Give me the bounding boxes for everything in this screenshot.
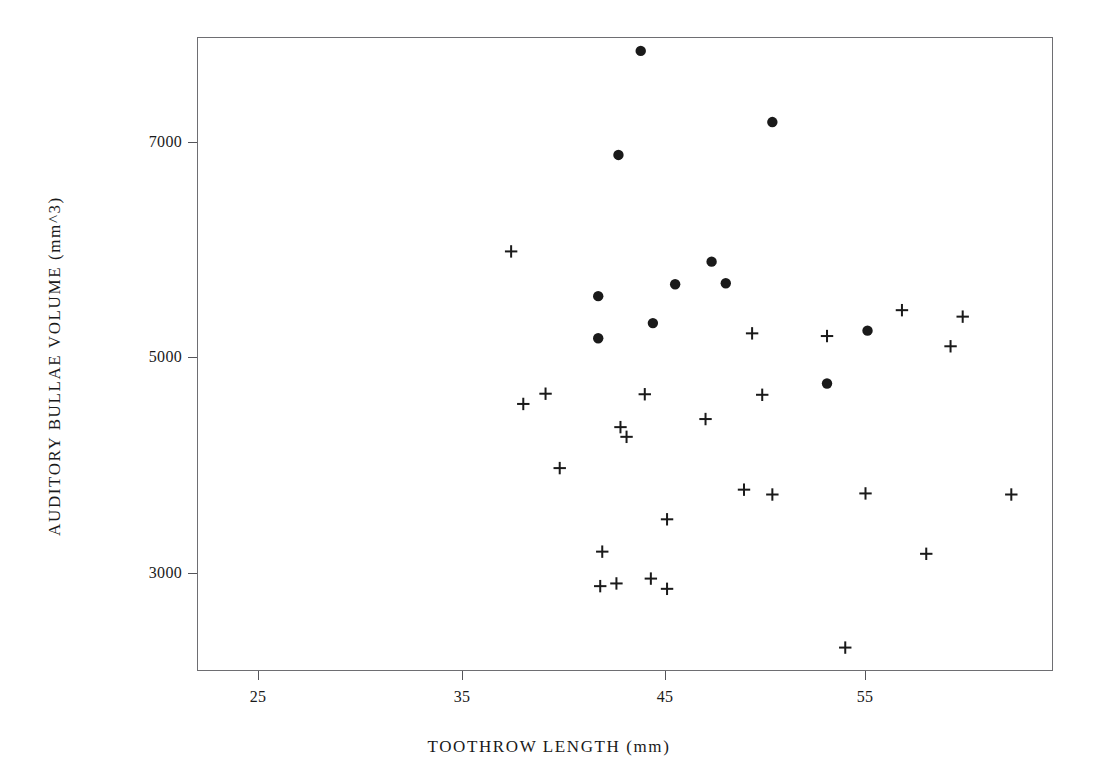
xtick-label-35: 35 <box>454 688 471 706</box>
scatter-plot-figure: 7000 5000 3000 25 35 45 55 TOOTHROW LENG… <box>0 0 1098 778</box>
ytick-label-3000: 3000 <box>98 564 182 582</box>
plot-area-frame <box>197 37 1053 671</box>
ytick-mark-5000 <box>188 357 197 358</box>
xtick-label-55: 55 <box>857 688 874 706</box>
ytick-label-7000: 7000 <box>98 133 182 151</box>
xtick-mark-25 <box>258 671 259 680</box>
xtick-mark-45 <box>665 671 666 680</box>
xtick-label-45: 45 <box>657 688 674 706</box>
y-axis-title: AUDITORY BULLAE VOLUME (mm^3) <box>45 49 69 683</box>
ytick-mark-3000 <box>188 573 197 574</box>
ytick-mark-7000 <box>188 142 197 143</box>
xtick-mark-35 <box>462 671 463 680</box>
ytick-label-5000: 5000 <box>98 348 182 366</box>
xtick-label-25: 25 <box>250 688 267 706</box>
x-axis-title: TOOTHROW LENGTH (mm) <box>0 737 1098 757</box>
xtick-mark-55 <box>865 671 866 680</box>
